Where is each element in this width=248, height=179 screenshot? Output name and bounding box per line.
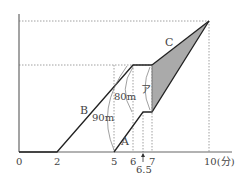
tick-2: 2 xyxy=(54,156,60,167)
label-a-kana: ア xyxy=(141,84,151,95)
label-c: C xyxy=(165,36,173,49)
label-b: B xyxy=(80,104,88,117)
tick-10: 10(分) xyxy=(204,156,235,167)
label-a: A xyxy=(120,135,130,148)
tick-7: 7 xyxy=(149,156,155,167)
label-80m: 80m xyxy=(114,91,137,102)
tick-0: 0 xyxy=(16,156,22,167)
tick-5: 5 xyxy=(111,156,117,167)
arrow-head xyxy=(141,153,145,157)
label-90m: 90m xyxy=(92,112,115,123)
brace-80m xyxy=(125,67,133,112)
distance-time-diagram: B A C 90m 80m ア 0 2 5 6 6.5 7 10(分) xyxy=(0,0,248,179)
